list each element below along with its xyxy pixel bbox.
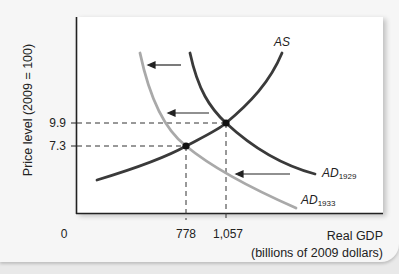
ad1933-label-sub: 1933	[318, 199, 336, 208]
x-origin-label: 0	[61, 227, 68, 241]
ad1929-label: AD1929	[322, 166, 356, 181]
ad1929-label-sub: 1929	[339, 172, 357, 181]
x-axis-label: Real GDP (billions of 2009 dollars)	[251, 228, 383, 262]
y-tick-label-7.3: 7.3	[36, 139, 66, 153]
ad1933-curve	[140, 53, 296, 208]
x-tick-label-778: 778	[176, 227, 196, 241]
as-curve	[97, 53, 282, 180]
x-axis-title: Real GDP	[251, 228, 383, 245]
ad1933-label-main: AD	[301, 193, 318, 207]
y-tick-label-9.9: 9.9	[36, 116, 66, 130]
x-tick-label-1057: 1,057	[213, 227, 243, 241]
ad1933-label: AD1933	[301, 193, 335, 208]
equilibrium-point-1929	[222, 119, 229, 126]
y-axis-label: Price level (2009 = 100)	[21, 44, 35, 176]
ad1929-label-main: AD	[322, 166, 339, 180]
as-label: AS	[274, 35, 290, 49]
x-axis-subtitle: (billions of 2009 dollars)	[251, 245, 383, 262]
equilibrium-point-1933	[182, 142, 189, 149]
